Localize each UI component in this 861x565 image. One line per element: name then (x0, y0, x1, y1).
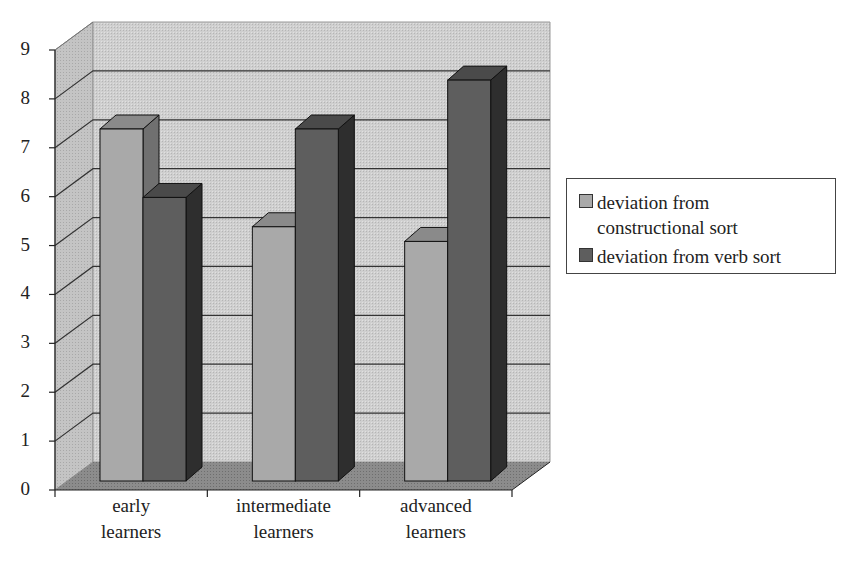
bar (448, 66, 507, 481)
bar (143, 183, 202, 481)
y-tick-label: 9 (10, 38, 30, 60)
legend-label: constructional sort (597, 217, 738, 238)
y-tick-label: 8 (10, 87, 30, 109)
legend: deviation from constructional sort devia… (566, 178, 836, 274)
bar (295, 115, 354, 481)
y-tick-label: 1 (10, 429, 30, 451)
y-tick-label: 6 (10, 185, 30, 207)
x-category-label: intermediatelearners (209, 493, 359, 545)
legend-item-constructional-line2: constructional sort (597, 214, 738, 240)
x-category-label: earlylearners (56, 493, 206, 545)
y-tick-label: 5 (10, 234, 30, 256)
legend-item-verb: deviation from verb sort (579, 243, 781, 269)
y-tick-label: 7 (10, 136, 30, 158)
legend-item-constructional: deviation from (579, 189, 709, 215)
bar-chart-3d (0, 0, 861, 565)
legend-label: deviation from verb sort (597, 246, 781, 267)
legend-label: deviation from (597, 192, 709, 213)
y-tick-label: 0 (10, 478, 30, 500)
legend-swatch-verb (579, 248, 593, 262)
y-tick-label: 4 (10, 282, 30, 304)
x-category-label: advancedlearners (361, 493, 511, 545)
legend-swatch-constructional (579, 194, 593, 208)
y-tick-label: 3 (10, 331, 30, 353)
y-tick-label: 2 (10, 380, 30, 402)
